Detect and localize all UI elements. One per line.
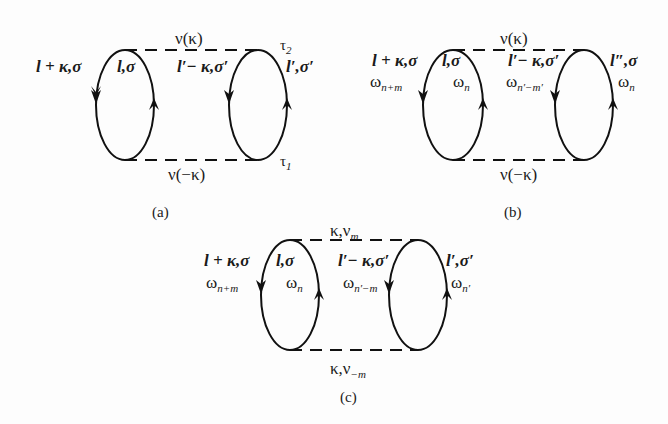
panel-c-bottom-interaction: κ,ν−m — [330, 360, 366, 380]
panel-c-right-inner-label: l′− κ,σ′ — [338, 252, 389, 269]
panel-c-caption: (c) — [340, 390, 357, 405]
panel-a-left-inner-label: l,σ — [117, 58, 135, 75]
panel-a-tau-top: τ2 — [280, 38, 292, 56]
panel-a-top-interaction: ν(κ) — [175, 30, 203, 47]
panel-c-left-outer-label: l + κ,σ — [204, 252, 249, 269]
panel-a-left-outer-label: l + κ,σ — [36, 58, 81, 75]
panel-a-tau-bottom: τ1 — [280, 154, 292, 172]
panel-c-freq-right-outer: ωn′ — [451, 274, 470, 294]
panel-c-freq-left-inner: ωn — [286, 274, 303, 294]
panel-b-top-interaction: ν(κ) — [500, 30, 528, 47]
arrow-down-icon — [91, 86, 101, 104]
panel-b-freq-left-outer: ωn+m — [370, 73, 402, 93]
panel-b-left-inner-label: l,σ — [442, 52, 460, 69]
panel-a-bottom-interaction: ν(−κ) — [168, 166, 205, 183]
panel-c-top-interaction: κ,νm — [330, 222, 358, 242]
panel-c-freq-right-inner: ωn′−m — [343, 274, 377, 294]
panel-a-right-inner-label: l′− κ,σ′ — [177, 58, 228, 75]
panel-b-freq-right-outer: ωn — [618, 73, 635, 93]
panel-c-right-outer-label: l′,σ′ — [446, 252, 474, 269]
panel-b-left-outer-label: l + κ,σ — [372, 52, 417, 69]
panel-b-right-outer-label: l″,σ — [610, 52, 638, 69]
panel-c-freq-left-outer: ωn+m — [206, 274, 238, 294]
panel-b-freq-left-inner: ωn — [453, 73, 470, 93]
panel-b-freq-right-inner: ωn′−m′ — [506, 73, 543, 93]
panel-a-caption: (a) — [152, 205, 169, 220]
feynman-diagram-figure: ν(κ) l + κ,σ l,σ l′− κ,σ′ l′,σ′ τ2 τ1 ν(… — [0, 0, 668, 424]
panel-b-right-inner-label: l′− κ,σ′ — [508, 52, 559, 69]
panel-c-left-inner-label: l,σ — [276, 252, 294, 269]
panel-a-right-outer-label: l′,σ′ — [286, 58, 314, 75]
panel-b-caption: (b) — [504, 205, 522, 220]
panel-b-bottom-interaction: ν(−κ) — [500, 166, 537, 183]
